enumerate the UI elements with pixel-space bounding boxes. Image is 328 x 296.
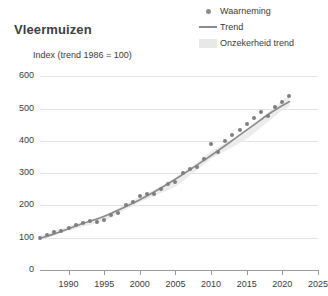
- x-tick-label: 1990: [58, 279, 78, 289]
- x-tick: [318, 270, 319, 275]
- data-point: [230, 133, 234, 137]
- data-point: [266, 114, 270, 118]
- data-point: [273, 105, 277, 109]
- y-tick-label: 400: [8, 135, 34, 145]
- gridline: [40, 109, 318, 110]
- x-axis-baseline: [40, 270, 318, 271]
- data-point: [252, 116, 256, 120]
- data-point: [116, 211, 120, 215]
- data-point: [74, 223, 78, 227]
- uncertainty-band: [40, 70, 318, 270]
- y-tick-label: 200: [8, 199, 34, 209]
- data-point: [245, 122, 249, 126]
- x-tick-label: 2015: [237, 279, 257, 289]
- gridline: [40, 76, 318, 77]
- dot-marker-icon: [196, 9, 220, 14]
- gridline: [40, 141, 318, 142]
- data-point: [95, 220, 99, 224]
- y-tick-label: 100: [8, 232, 34, 242]
- data-point: [67, 226, 71, 230]
- band-marker-icon: [196, 39, 220, 48]
- x-tick-label: 2005: [165, 279, 185, 289]
- data-point: [59, 229, 63, 233]
- trend-line: [40, 70, 318, 270]
- data-point: [202, 157, 206, 161]
- data-point: [238, 128, 242, 132]
- data-point: [181, 171, 185, 175]
- gridline: [40, 205, 318, 206]
- x-tick-label: 2025: [308, 279, 328, 289]
- data-point: [124, 203, 128, 207]
- legend-label: Waarneming: [220, 4, 271, 18]
- data-point: [159, 187, 163, 191]
- x-tick-label: 2020: [272, 279, 292, 289]
- y-tick-label: 600: [8, 70, 34, 80]
- legend-item-trend: Trend: [196, 20, 324, 34]
- legend-item-waarneming: Waarneming: [196, 4, 324, 18]
- data-point: [81, 221, 85, 225]
- gridline: [40, 173, 318, 174]
- legend-item-onzekerheid-trend: Onzekerheid trend: [196, 36, 324, 50]
- x-tick-label: 2000: [130, 279, 150, 289]
- data-point: [38, 236, 42, 240]
- plot-area: 0100200300400500600 19901995200020052010…: [40, 70, 318, 270]
- y-tick-label: 500: [8, 103, 34, 113]
- y-tick-label: 0: [8, 264, 34, 274]
- data-point: [209, 142, 213, 146]
- x-tick: [282, 270, 283, 275]
- data-point: [166, 182, 170, 186]
- data-point: [152, 192, 156, 196]
- data-point: [138, 194, 142, 198]
- data-point: [223, 139, 227, 143]
- data-point: [88, 219, 92, 223]
- line-marker-icon: [196, 26, 220, 28]
- x-tick: [104, 270, 105, 275]
- data-point: [45, 233, 49, 237]
- chart-legend: Waarneming Trend Onzekerheid trend: [196, 4, 324, 52]
- data-point: [145, 192, 149, 196]
- data-point: [52, 230, 56, 234]
- data-point: [216, 150, 220, 154]
- x-tick: [69, 270, 70, 275]
- x-tick: [140, 270, 141, 275]
- x-tick: [247, 270, 248, 275]
- x-tick: [175, 270, 176, 275]
- data-point: [131, 200, 135, 204]
- data-point: [287, 94, 291, 98]
- data-point: [102, 218, 106, 222]
- data-point: [109, 213, 113, 217]
- y-axis-title: Index (trend 1986 = 100): [33, 50, 132, 60]
- x-tick: [211, 270, 212, 275]
- data-point: [259, 110, 263, 114]
- data-point: [173, 180, 177, 184]
- y-tick-label: 300: [8, 167, 34, 177]
- page-title: Vleermuizen: [14, 22, 92, 37]
- x-tick-label: 1995: [94, 279, 114, 289]
- data-point: [195, 165, 199, 169]
- gridline: [40, 238, 318, 239]
- legend-label: Onzekerheid trend: [220, 36, 294, 50]
- x-tick-label: 2010: [201, 279, 221, 289]
- data-point: [188, 167, 192, 171]
- legend-label: Trend: [220, 20, 243, 34]
- data-point: [280, 100, 284, 104]
